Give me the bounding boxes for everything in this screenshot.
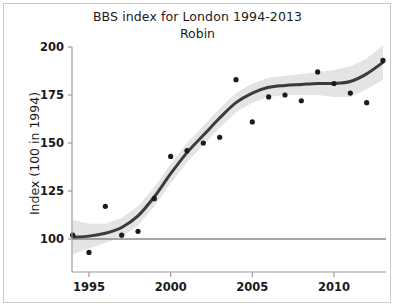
- data-point: [119, 233, 124, 238]
- x-tick-label: 2000: [155, 280, 187, 294]
- data-point: [348, 90, 353, 95]
- data-point: [135, 229, 140, 234]
- data-point: [331, 81, 336, 86]
- x-tick-label: 2005: [236, 280, 268, 294]
- data-point: [103, 204, 108, 209]
- x-tick-labels: 1995200020052010: [73, 280, 350, 294]
- data-point: [282, 92, 287, 97]
- data-point: [315, 69, 320, 74]
- y-tick-label: 200: [40, 40, 64, 54]
- y-tick-label: 100: [40, 232, 64, 246]
- data-point: [70, 233, 75, 238]
- chart-page: BBS index for London 1994-2013 Robin Ind…: [0, 0, 395, 307]
- y-tick-labels: 100125150175200: [40, 40, 64, 246]
- data-point: [201, 140, 206, 145]
- plot-area: 1995200020052010 100125150175200: [0, 0, 395, 307]
- data-point: [250, 119, 255, 124]
- confidence-band: [73, 45, 383, 254]
- y-tick-label: 125: [40, 184, 64, 198]
- data-point: [217, 135, 222, 140]
- data-point: [184, 148, 189, 153]
- data-point: [299, 98, 304, 103]
- data-point: [380, 58, 385, 63]
- x-tick-label: 2010: [318, 280, 350, 294]
- data-point: [152, 196, 157, 201]
- data-point: [266, 94, 271, 99]
- y-tick-label: 150: [40, 136, 64, 150]
- data-point: [364, 100, 369, 105]
- y-tick-label: 175: [40, 88, 64, 102]
- data-point: [86, 250, 91, 255]
- data-point: [168, 154, 173, 159]
- data-point: [233, 77, 238, 82]
- x-tick-label: 1995: [73, 280, 105, 294]
